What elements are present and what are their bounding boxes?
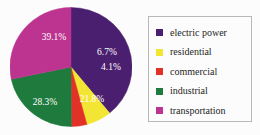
legend-label-residential: residential xyxy=(170,47,212,57)
chart-legend: electric power residential commercial in… xyxy=(148,16,252,122)
pie-chart: 39.1%6.7%4.1%21.8%28.3% xyxy=(10,7,132,127)
legend-label-electric-power: electric power xyxy=(170,28,227,38)
legend-swatch-icon-electric-power xyxy=(156,29,163,36)
legend-swatch-icon-transportation xyxy=(156,107,163,114)
pie-chart-svg: 39.1%6.7%4.1%21.8%28.3% xyxy=(10,7,132,127)
pie-slice-label-residential: 6.7% xyxy=(97,47,117,57)
legend-swatch-icon-residential xyxy=(156,49,163,56)
legend-item-electric-power[interactable]: electric power xyxy=(156,23,251,43)
legend-swatch-icon-commercial xyxy=(156,68,163,75)
legend-label-industrial: industrial xyxy=(170,86,208,96)
legend-item-commercial[interactable]: commercial xyxy=(156,62,251,82)
pie-slice-label-transportation: 28.3% xyxy=(33,97,58,107)
pie-slice-label-electric-power: 39.1% xyxy=(42,32,67,42)
pie-chart-figure: 39.1%6.7%4.1%21.8%28.3% electric power r… xyxy=(0,0,260,135)
legend-item-industrial[interactable]: industrial xyxy=(156,82,251,102)
legend-item-transportation[interactable]: transportation xyxy=(156,101,251,121)
pie-slice-transportation[interactable] xyxy=(10,8,71,80)
pie-slice-label-commercial: 4.1% xyxy=(101,62,121,72)
pie-slice-label-industrial: 21.8% xyxy=(80,94,105,104)
legend-label-transportation: transportation xyxy=(170,106,226,116)
legend-item-residential[interactable]: residential xyxy=(156,43,251,63)
legend-swatch-icon-industrial xyxy=(156,88,163,95)
legend-label-commercial: commercial xyxy=(170,67,217,77)
